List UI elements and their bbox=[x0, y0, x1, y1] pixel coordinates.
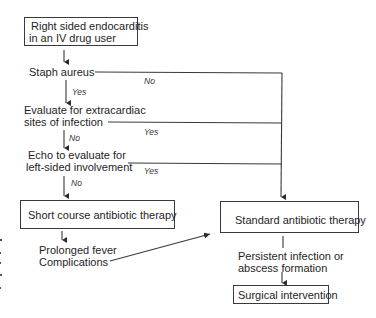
node-prolonged-line2: Complications bbox=[39, 256, 108, 269]
edge-label-echo-yes: Yes bbox=[144, 166, 158, 176]
node-extracardiac-line2: sites of infection bbox=[24, 116, 103, 129]
node-start-line1: Right sided endocarditis bbox=[31, 20, 148, 33]
node-echo-line2: left-sided involvement bbox=[26, 161, 132, 174]
node-prolonged-line1: Prolonged fever bbox=[39, 244, 117, 257]
node-surgical-label: Surgical intervention bbox=[238, 289, 338, 302]
cropped-text-fragment bbox=[0, 239, 2, 241]
edge-label-extracardiac-yes: Yes bbox=[144, 127, 158, 137]
node-echo-line1: Echo to evaluate for bbox=[28, 149, 126, 162]
edge-label-extracardiac-no: No bbox=[69, 133, 80, 143]
cropped-text-fragment bbox=[0, 262, 1, 264]
flowchart-diagram: Right sided endocarditis in an IV drug u… bbox=[0, 0, 376, 318]
node-short-course-label: Short course antibiotic therapy bbox=[28, 209, 177, 222]
node-standard-box: Standard antibiotic therapy bbox=[220, 201, 359, 233]
node-persistent-line2: abscess formation bbox=[238, 262, 327, 275]
node-extracardiac-line1: Evaluate for extracardiac bbox=[24, 104, 146, 117]
node-start-box: Right sided endocarditis in an IV drug u… bbox=[24, 17, 138, 46]
node-staph-aureus: Staph aureus bbox=[29, 66, 94, 79]
cropped-text-fragment bbox=[0, 287, 1, 289]
node-persistent-line1: Persistent infection or bbox=[238, 250, 344, 263]
cropped-text-fragment bbox=[0, 252, 1, 254]
node-standard-label: Standard antibiotic therapy bbox=[235, 214, 366, 227]
node-surgical-box: Surgical intervention bbox=[233, 285, 329, 304]
edge-label-echo-no: No bbox=[71, 178, 82, 188]
cropped-text-fragment bbox=[0, 274, 2, 276]
edge-label-staph-no: No bbox=[144, 76, 155, 86]
edge-label-staph-yes: Yes bbox=[72, 87, 86, 97]
node-start-line2: in an IV drug user bbox=[29, 32, 116, 45]
node-short-course-box: Short course antibiotic therapy bbox=[20, 200, 175, 229]
